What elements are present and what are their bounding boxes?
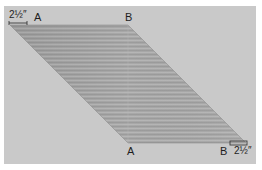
top-point-b-label: B xyxy=(125,12,132,23)
bottom-point-a-label: A xyxy=(127,146,134,157)
top-measurement-bracket xyxy=(9,21,27,25)
bottom-point-b-label: B xyxy=(220,146,227,157)
top-point-a-label: A xyxy=(34,12,41,23)
top-measurement-label: 2½″ xyxy=(9,10,26,20)
bottom-measurement-label: 2½″ xyxy=(234,146,251,156)
